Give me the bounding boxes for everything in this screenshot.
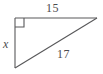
hypotenuse-line — [15, 18, 97, 68]
side-label-vertical-leg: x — [3, 38, 8, 50]
right-triangle-figure: 15 x 17 — [0, 0, 103, 74]
right-angle-marker-icon — [15, 18, 24, 27]
side-label-hypotenuse: 17 — [57, 48, 70, 60]
side-label-top-leg: 15 — [46, 2, 59, 14]
